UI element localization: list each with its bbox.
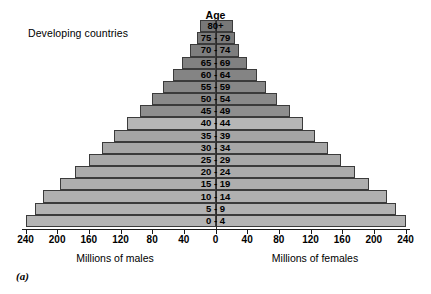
pyramid-row: 60 - 64 [0, 69, 431, 81]
age-group-label: 10 - 14 [0, 192, 431, 202]
age-group-label: 40 - 44 [0, 119, 431, 129]
age-group-label: 35 - 39 [0, 131, 431, 141]
age-group-label: 45 - 49 [0, 107, 431, 117]
age-group-label: 80+ [0, 21, 431, 31]
age-group-label: 30 - 34 [0, 143, 431, 153]
figure-label: (a) [16, 270, 29, 282]
pyramid-row: 45 - 49 [0, 105, 431, 117]
pyramid-row: 80+ [0, 20, 431, 32]
age-group-label: 60 - 64 [0, 70, 431, 80]
pyramid-row: 0 - 4 [0, 215, 431, 227]
pyramid-row: 55 - 59 [0, 81, 431, 93]
plot-area: 0 - 45 - 910 - 1415 - 1920 - 2425 - 2930… [0, 20, 431, 227]
age-group-label: 50 - 54 [0, 94, 431, 104]
age-group-label: 70 - 74 [0, 46, 431, 56]
pyramid-row: 5 - 9 [0, 203, 431, 215]
x-axis-tick-label: 240 [386, 235, 426, 245]
pyramid-row: 20 - 24 [0, 166, 431, 178]
population-pyramid-chart: Developing countries Age 0 - 45 - 910 - … [0, 0, 431, 294]
pyramid-row: 30 - 34 [0, 142, 431, 154]
age-group-label: 25 - 29 [0, 155, 431, 165]
pyramid-row: 75 - 79 [0, 32, 431, 44]
pyramid-row: 40 - 44 [0, 117, 431, 129]
age-group-label: 75 - 79 [0, 34, 431, 44]
pyramid-row: 10 - 14 [0, 190, 431, 202]
age-group-label: 20 - 24 [0, 167, 431, 177]
pyramid-row: 25 - 29 [0, 154, 431, 166]
age-group-label: 5 - 9 [0, 204, 431, 214]
pyramid-row: 15 - 19 [0, 178, 431, 190]
age-group-label: 55 - 59 [0, 82, 431, 92]
age-group-label: 0 - 4 [0, 216, 431, 226]
pyramid-row: 65 - 69 [0, 57, 431, 69]
pyramid-row: 70 - 74 [0, 44, 431, 56]
axis-caption-males: Millions of males [30, 252, 200, 264]
pyramid-row: 50 - 54 [0, 93, 431, 105]
age-group-label: 65 - 69 [0, 58, 431, 68]
pyramid-row: 35 - 39 [0, 130, 431, 142]
axis-caption-females: Millions of females [230, 252, 400, 264]
age-group-label: 15 - 19 [0, 180, 431, 190]
